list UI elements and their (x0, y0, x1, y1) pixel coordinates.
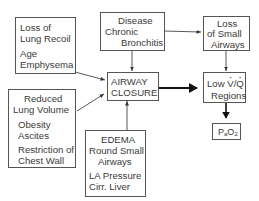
node-loss-of-lung-recoil: Loss of Lung Recoil Age Emphysema (15, 17, 76, 74)
cause-chest-wall: Chest Wall (18, 156, 64, 166)
node-line3: Bronchitis (121, 38, 163, 48)
node-line2: CLOSURE (111, 88, 157, 98)
cause-ascites: Ascites (18, 131, 49, 141)
sub-2: 2 (234, 131, 237, 137)
node-pao2: PaO2 (212, 123, 241, 140)
cause-age: Age (20, 49, 37, 59)
node-line3: Airways (98, 157, 132, 167)
node-title-line2: Lung Volume (13, 105, 69, 115)
arrow-lung-volume-to-closure (77, 94, 104, 111)
node-title-line2: Lung Recoil (20, 34, 71, 44)
node-disease-chronic-bronchitis: Disease Chronic Bronchitis (100, 12, 165, 51)
node-title-line1: Loss of (20, 23, 51, 33)
node-title-line1: Reduced (24, 94, 62, 104)
q-dot: Q (236, 79, 243, 89)
node-line1: Disease (118, 16, 153, 26)
arrow-disease-to-small-airways (164, 31, 201, 32)
node-line1: Low V/Q (207, 79, 244, 89)
node-line2: Regions (211, 91, 246, 101)
node-line5: Cirr. Liver (89, 182, 130, 192)
node-line1: EDEMA (101, 135, 135, 145)
node-line3: Airways (211, 40, 245, 50)
node-loss-of-small-airways: Loss of Small Airways (203, 16, 250, 51)
cause-restriction: Restriction of (18, 145, 74, 155)
node-line2: Round Small (89, 146, 144, 156)
node-airway-closure: AIRWAY CLOSURE (107, 72, 159, 101)
node-line2: of Small (207, 29, 242, 39)
node-low-vq-regions: Low V/Q Regions (203, 72, 246, 103)
cause-obesity: Obesity (18, 120, 51, 130)
node-line1: AIRWAY (111, 77, 148, 87)
arrow-lung-recoil-to-closure (75, 72, 105, 80)
low-prefix: Low (207, 78, 227, 89)
node-edema: EDEMA Round Small Airways LA Pressure Ci… (85, 130, 146, 197)
cause-emphysema: Emphysema (20, 60, 73, 70)
v-dot: V (227, 79, 233, 89)
pao2-label: PaO2 (218, 127, 238, 139)
node-reduced-lung-volume: Reduced Lung Volume Obesity Ascites Rest… (8, 89, 76, 168)
node-line4: LA Pressure (89, 171, 141, 181)
node-line2: Chronic (105, 27, 138, 37)
